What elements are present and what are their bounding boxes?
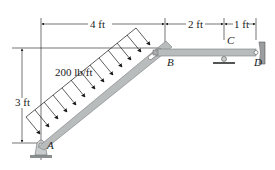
- dim-label-3ft: 3 ft: [15, 96, 30, 108]
- load-label: 200 lb/ft: [55, 66, 93, 78]
- member-BD: [153, 49, 256, 56]
- dimension-left: [12, 48, 160, 143]
- label-point-C: C: [227, 34, 235, 46]
- member-AB: [38, 41, 172, 150]
- dim-label-1ft: 1 ft: [234, 18, 249, 30]
- dimension-top: [41, 18, 256, 160]
- label-point-B: B: [167, 56, 174, 68]
- distributed-load: [26, 28, 150, 134]
- dim-label-2ft: 2 ft: [188, 18, 203, 30]
- dim-label-4ft: 4 ft: [90, 18, 105, 30]
- roller-support-C: [213, 57, 235, 65]
- label-point-A: A: [46, 139, 54, 151]
- frame-diagram: 4 ft 2 ft 1 ft 3 ft 200 lb/ft: [0, 0, 275, 170]
- label-point-D: D: [253, 56, 262, 68]
